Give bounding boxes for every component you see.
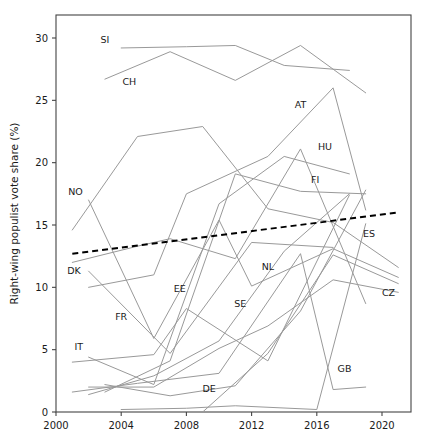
series-line-cz [89, 280, 399, 387]
x-tick-label: 2016 [304, 420, 329, 431]
y-tick-label: 20 [35, 157, 48, 168]
series-label-dk: DK [67, 265, 81, 276]
trend-line [72, 213, 398, 254]
series-label-fi: FI [311, 174, 319, 185]
series-labels: SICHATHUFINODKEENLSEFRITDEGBESCZ [67, 34, 395, 394]
series-label-es: ES [363, 228, 375, 239]
y-axis-title: Right-wing populist vote share (%) [8, 123, 20, 305]
x-tick-label: 2004 [108, 420, 133, 431]
series-label-gb: GB [338, 363, 352, 374]
series-label-it: IT [75, 341, 84, 352]
series-line-at [89, 88, 366, 287]
y-axis: 051015202530 [35, 33, 56, 418]
x-tick-label: 2012 [239, 420, 264, 431]
series-line-es [121, 224, 366, 410]
y-tick-label: 0 [42, 407, 48, 418]
series-label-nl: NL [262, 261, 275, 272]
series-label-de: DE [203, 383, 216, 394]
chart-figure: 051015202530200020042008201220162020Righ… [0, 0, 431, 441]
y-tick-label: 25 [35, 95, 48, 106]
y-tick-label: 30 [35, 33, 48, 44]
series-line-gb [72, 254, 365, 392]
chart-canvas: 051015202530200020042008201220162020Righ… [0, 0, 431, 441]
series-line-de [203, 255, 399, 412]
series-label-ee: EE [174, 283, 186, 294]
series-group [72, 45, 398, 412]
x-axis: 200020042008201220162020 [43, 412, 394, 431]
x-tick-label: 2008 [174, 420, 199, 431]
series-line-it [72, 195, 349, 362]
series-line-dk [72, 149, 365, 304]
series-label-hu: HU [318, 141, 332, 152]
y-tick-label: 15 [35, 220, 48, 231]
series-line-hu [89, 156, 350, 384]
series-label-fr: FR [115, 311, 127, 322]
series-label-no: NO [68, 186, 83, 197]
line-chart-svg: 051015202530200020042008201220162020Righ… [0, 0, 431, 441]
y-tick-label: 5 [42, 344, 48, 355]
series-label-cz: CZ [382, 287, 396, 298]
series-label-se: SE [234, 298, 246, 309]
x-tick-label: 2020 [369, 420, 394, 431]
series-label-ch: CH [122, 76, 136, 87]
series-label-at: AT [295, 99, 307, 110]
y-tick-label: 10 [35, 282, 48, 293]
x-tick-label: 2000 [43, 420, 68, 431]
series-line-fi [105, 174, 366, 392]
series-label-si: SI [100, 34, 109, 45]
